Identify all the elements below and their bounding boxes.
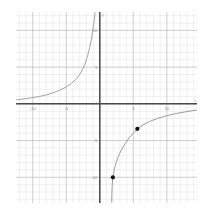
plot-canvas: -10-55101050-5-10 yx	[0, 0, 204, 215]
svg-text:y: y	[102, 12, 104, 17]
minor-gridlines	[16, 12, 197, 203]
svg-text:-5: -5	[94, 138, 98, 143]
function-graph: -10-55101050-5-10 yx	[0, 0, 204, 215]
svg-text:-10: -10	[91, 175, 98, 180]
svg-text:10: 10	[93, 28, 98, 33]
svg-text:-5: -5	[64, 106, 68, 111]
svg-text:-10: -10	[30, 106, 37, 111]
svg-text:10: 10	[164, 106, 169, 111]
svg-text:x: x	[194, 98, 196, 103]
svg-text:5: 5	[132, 106, 135, 111]
marked-points	[111, 127, 140, 180]
